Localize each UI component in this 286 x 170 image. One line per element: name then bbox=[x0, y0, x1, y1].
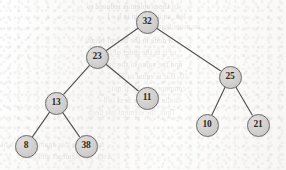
tree-node-21[interactable]: 21 bbox=[247, 114, 270, 137]
tree-node-label: 11 bbox=[143, 93, 152, 103]
tree-node-label: 38 bbox=[81, 141, 90, 151]
tree-node-11[interactable]: 11 bbox=[136, 87, 159, 110]
tree-node-38[interactable]: 38 bbox=[75, 135, 98, 158]
tree-node-label: 10 bbox=[202, 120, 211, 130]
tree-node-label: 8 bbox=[24, 141, 29, 151]
tree-node-10[interactable]: 10 bbox=[196, 114, 219, 137]
tree-node-25[interactable]: 25 bbox=[219, 66, 242, 89]
tree-node-label: 13 bbox=[51, 98, 60, 108]
tree-nodes: 32232513111021838 bbox=[0, 0, 286, 170]
tree-node-13[interactable]: 13 bbox=[45, 92, 68, 115]
tree-node-label: 25 bbox=[225, 72, 234, 82]
diagram-canvas: of the problem is reduced toleft, so its… bbox=[0, 0, 286, 170]
tree-node-23[interactable]: 23 bbox=[86, 46, 109, 69]
tree-node-8[interactable]: 8 bbox=[15, 135, 38, 158]
tree-node-label: 32 bbox=[142, 17, 151, 27]
tree-node-32[interactable]: 32 bbox=[136, 11, 159, 34]
tree-node-label: 21 bbox=[253, 120, 262, 130]
tree-node-label: 23 bbox=[92, 52, 101, 62]
